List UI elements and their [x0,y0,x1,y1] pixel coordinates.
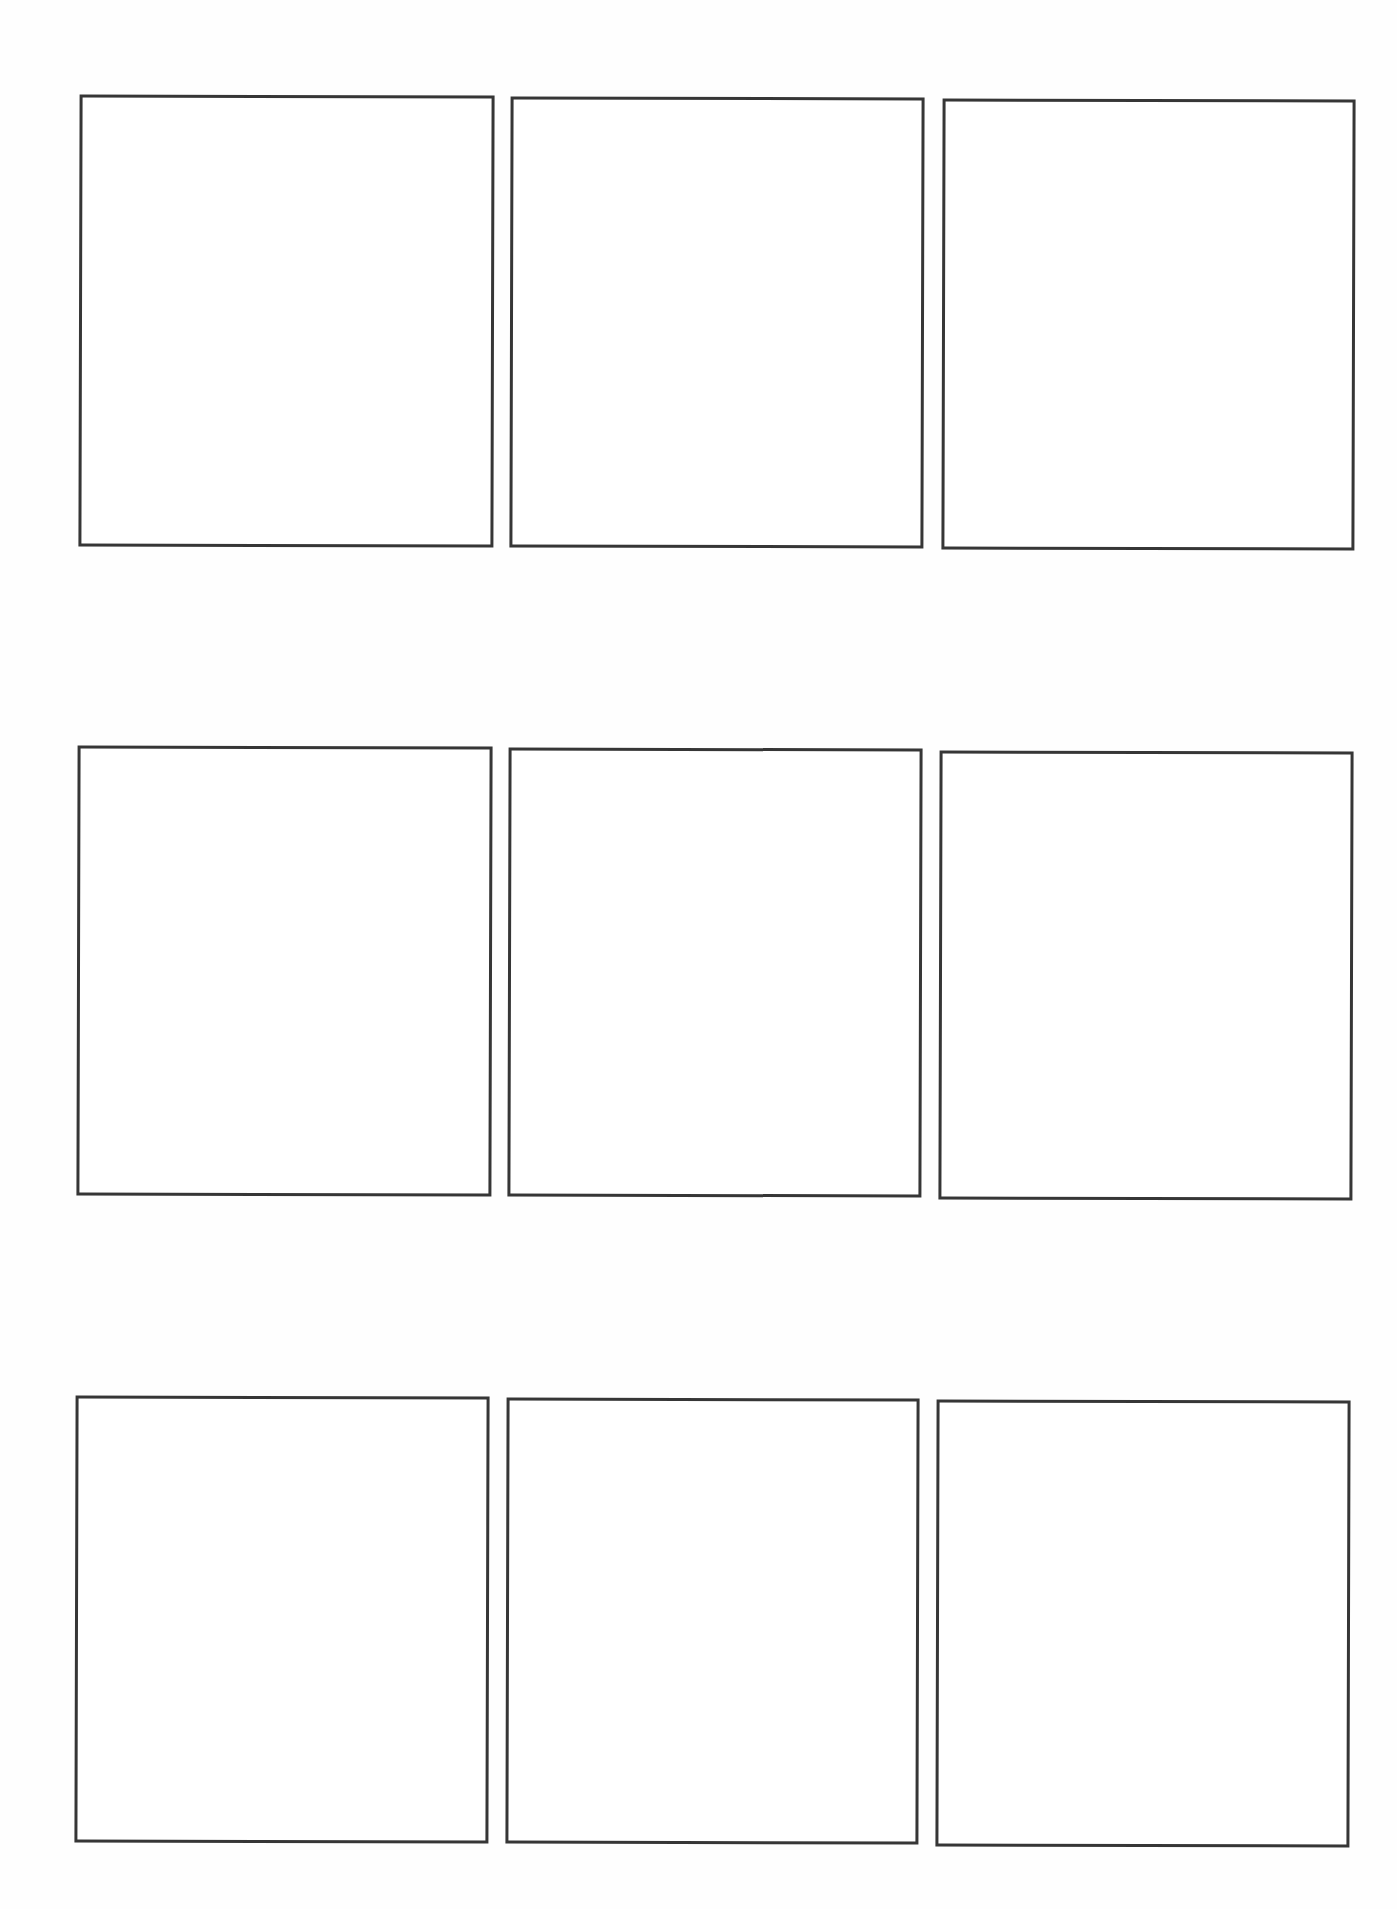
panel-r1-c2 [509,96,924,548]
panel-r1-c3 [941,98,1355,550]
comic-page [0,0,1397,1909]
panel-r2-c1 [76,745,492,1196]
panel-r2-c2 [507,747,922,1197]
panel-r3-c3 [935,1399,1350,1847]
panel-r3-c1 [74,1395,489,1843]
panel-r3-c2 [505,1397,919,1844]
panel-r1-c1 [78,94,494,547]
panel-r2-c3 [938,750,1353,1200]
